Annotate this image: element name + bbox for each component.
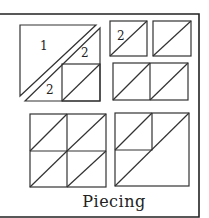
piecing-diagram: 1 2 2 2 Piecing	[0, 0, 209, 218]
exploded-block	[20, 25, 100, 101]
assembled-block	[115, 113, 189, 186]
label-lower-small-triangle: 2	[46, 83, 54, 97]
caption: Piecing	[82, 192, 145, 211]
four-patch-hst	[30, 114, 106, 187]
half-square-units-pair	[113, 63, 188, 100]
label-upper-small-triangle: 2	[81, 46, 89, 60]
large-triangle-piece	[20, 25, 96, 96]
label-large-triangle: 1	[40, 39, 48, 53]
label-small-block: 2	[117, 29, 125, 43]
